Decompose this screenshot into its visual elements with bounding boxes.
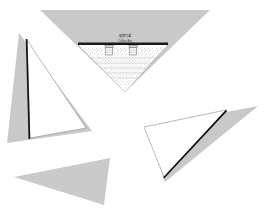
right-input-box[interactable] <box>129 45 137 55</box>
toolbar-highlight-edge <box>78 43 168 44</box>
left-input-box[interactable] <box>105 45 113 55</box>
bottom-shard-group <box>14 158 110 205</box>
fragments-canvas: 搜索引擎 Collins Bar <box>0 0 270 223</box>
toolbar-subtitle-label: Collins Bar <box>118 39 132 43</box>
right-outlined-triangle-shard <box>144 110 226 177</box>
left-shard-group <box>7 33 92 143</box>
left-outlined-triangle-shard <box>27 40 86 138</box>
top-shard-group: 搜索引擎 Collins Bar <box>40 10 210 92</box>
bottom-left-triangle-shard <box>14 158 110 205</box>
shattered-ui-canvas: 搜索引擎 Collins Bar <box>0 0 270 223</box>
right-shard-group <box>144 106 258 182</box>
